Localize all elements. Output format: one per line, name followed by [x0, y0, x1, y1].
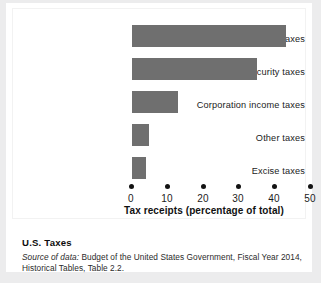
- x-axis-title: Tax receipts (percentage of total): [124, 205, 284, 216]
- x-tick-label-40: 40: [261, 193, 287, 204]
- x-tick-label-20: 20: [190, 193, 216, 204]
- x-tick-label-10: 10: [154, 193, 180, 204]
- tick-dot-40: [272, 184, 277, 189]
- tick-dot-20: [201, 184, 206, 189]
- caption-title: U.S. Taxes: [22, 237, 302, 248]
- chart-plot-area: Personal income taxes Social Security ta…: [12, 8, 306, 219]
- figure-card: Personal income taxes Social Security ta…: [6, 3, 312, 272]
- figure-caption: U.S. Taxes Source of data: Budget of the…: [22, 237, 302, 273]
- tick-dot-10: [165, 184, 170, 189]
- tick-dot-30: [236, 184, 241, 189]
- x-tick-label-0: 0: [118, 193, 144, 204]
- x-tick-label-50: 50: [297, 193, 321, 204]
- x-axis: 0 10 20 30 40 50 Tax receipts (percentag…: [13, 9, 305, 218]
- caption-source-lead: Source of data:: [22, 252, 79, 262]
- tick-dot-0: [129, 184, 134, 189]
- caption-source: Source of data: Budget of the United Sta…: [22, 252, 302, 273]
- x-tick-label-30: 30: [225, 193, 251, 204]
- tick-dot-50: [308, 184, 313, 189]
